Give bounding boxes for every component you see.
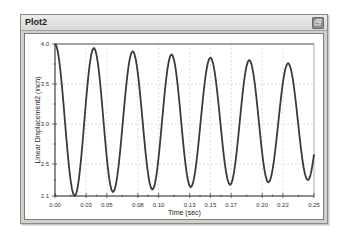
plot-area-container: 0.000.030.050.080.100.130.150.170.200.22… xyxy=(24,33,324,220)
x-tick-label: 0.13 xyxy=(184,202,196,208)
x-tick-label: 0.25 xyxy=(308,202,320,208)
y-axis-title: Linear Displacement2 (inch) xyxy=(34,76,42,163)
plot-window: Plot2 0.000.030.050.080.100.130.150.170.… xyxy=(20,14,328,224)
y-tick-label: 3.0 xyxy=(41,121,50,127)
y-tick-label: 3.5 xyxy=(41,81,50,87)
x-tick-label: 0.22 xyxy=(277,202,289,208)
restore-button[interactable] xyxy=(312,17,324,29)
x-tick-label: 0.17 xyxy=(225,202,237,208)
x-tick-label: 0.00 xyxy=(49,202,61,208)
plot-background xyxy=(55,44,314,196)
window-title: Plot2 xyxy=(25,17,47,27)
y-tick-label: 2.1 xyxy=(41,193,50,199)
x-tick-label: 0.10 xyxy=(153,202,165,208)
line-chart: 0.000.030.050.080.100.130.150.170.200.22… xyxy=(25,34,323,219)
title-bar[interactable]: Plot2 xyxy=(21,15,327,31)
x-tick-label: 0.20 xyxy=(256,202,268,208)
y-tick-label: 2.5 xyxy=(41,161,50,167)
restore-icon xyxy=(313,18,323,28)
y-tick-label: 4.0 xyxy=(41,41,50,47)
x-tick-label: 0.03 xyxy=(80,202,92,208)
x-axis-title: Time (sec) xyxy=(168,209,201,217)
x-tick-label: 0.08 xyxy=(132,202,144,208)
x-tick-label: 0.05 xyxy=(101,202,113,208)
x-tick-label: 0.15 xyxy=(205,202,217,208)
